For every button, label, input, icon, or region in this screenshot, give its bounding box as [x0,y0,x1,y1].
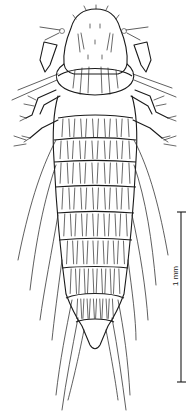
scale-bar [177,212,186,382]
segment-lines [54,115,136,322]
body-outline [53,96,137,349]
legs [14,42,176,146]
prothorax [12,64,176,100]
larva-illustration [0,0,191,419]
head [40,5,148,74]
dorsal-setae [60,119,130,318]
scale-bar-label: 1 mm [171,266,180,286]
